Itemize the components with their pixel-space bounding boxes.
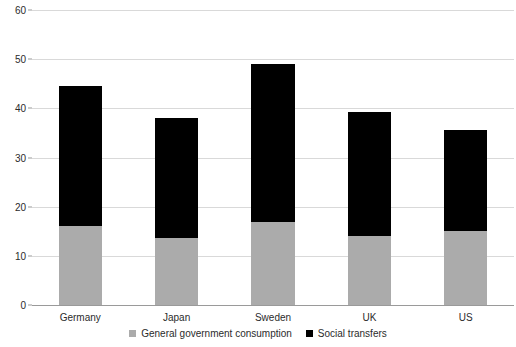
legend-item[interactable]: General government consumption <box>129 328 292 339</box>
legend-swatch-social-transfers <box>306 330 313 337</box>
legend-swatch-general-government-consumption <box>129 330 136 337</box>
plot-area: 0102030405060 GermanyJapanSwedenUKUS <box>32 10 514 305</box>
bar-segment-general-government-consumption <box>444 231 487 305</box>
legend-label: Social transfers <box>318 328 387 339</box>
chart-legend: General government consumptionSocial tra… <box>0 328 516 339</box>
bar-stack <box>348 112 391 305</box>
bar-stack <box>251 64 294 305</box>
y-tick-label-50: 50 <box>15 54 26 65</box>
bars-layer <box>32 10 514 305</box>
y-tick-label-40: 40 <box>15 103 26 114</box>
y-tick-label-10: 10 <box>15 250 26 261</box>
bar-segment-social-transfers <box>59 86 102 226</box>
y-tick-label-0: 0 <box>20 300 26 311</box>
bar-stack <box>155 118 198 305</box>
y-tick-label-60: 60 <box>15 5 26 16</box>
gridline-0 <box>32 305 514 306</box>
bar-stack <box>444 130 487 305</box>
bar-segment-general-government-consumption <box>59 226 102 305</box>
bar-group <box>251 10 294 305</box>
bar-group <box>348 10 391 305</box>
bar-segment-social-transfers <box>251 64 294 222</box>
bar-segment-social-transfers <box>348 112 391 236</box>
bar-group <box>444 10 487 305</box>
x-tick-label-germany: Germany <box>60 312 101 323</box>
bar-segment-general-government-consumption <box>251 222 294 305</box>
bar-group <box>59 10 102 305</box>
bar-group <box>155 10 198 305</box>
legend-item[interactable]: Social transfers <box>306 328 387 339</box>
legend-label: General government consumption <box>141 328 292 339</box>
bar-stack <box>59 86 102 305</box>
y-tick-label-20: 20 <box>15 201 26 212</box>
y-tick-label-30: 30 <box>15 152 26 163</box>
bar-segment-social-transfers <box>155 118 198 237</box>
bar-segment-social-transfers <box>444 130 487 231</box>
stacked-bar-chart: 0102030405060 GermanyJapanSwedenUKUS Gen… <box>0 0 516 347</box>
x-tick-label-japan: Japan <box>163 312 190 323</box>
bar-segment-general-government-consumption <box>155 238 198 305</box>
bar-segment-general-government-consumption <box>348 236 391 305</box>
x-tick-label-uk: UK <box>362 312 376 323</box>
x-tick-label-us: US <box>459 312 473 323</box>
x-tick-label-sweden: Sweden <box>255 312 291 323</box>
